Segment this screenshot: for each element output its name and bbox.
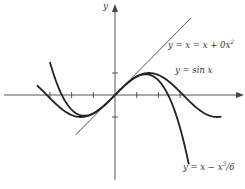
label-cubic-tail: /6 bbox=[226, 162, 234, 172]
axes bbox=[4, 4, 244, 180]
label-tangent-line: y = x = x + 0x2 bbox=[168, 38, 234, 50]
y-axis-arrow-icon bbox=[112, 4, 118, 12]
label-cubic-text: y = x − x bbox=[183, 162, 222, 172]
label-tangent-text: y = x = x + 0x bbox=[168, 40, 230, 50]
curve-1 bbox=[50, 62, 189, 164]
label-sin-text: y = sin x bbox=[175, 65, 212, 75]
y-axis-label: y bbox=[103, 1, 108, 11]
label-sin: y = sin x bbox=[175, 65, 212, 75]
x-axis-arrow-icon bbox=[236, 92, 244, 98]
label-cubic: y = x − x3/6 bbox=[183, 160, 235, 172]
curve-2 bbox=[76, 18, 191, 135]
label-tangent-sup: 2 bbox=[230, 38, 234, 45]
